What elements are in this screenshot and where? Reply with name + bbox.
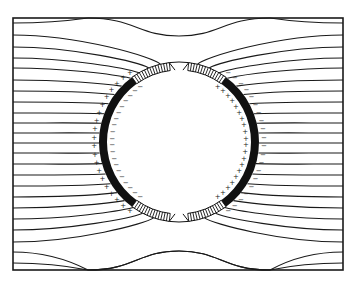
charge-mark-negative: − [244,190,250,198]
charge-mark-negative: − [261,142,267,150]
charge-mark-positive: + [94,159,100,167]
charge-mark-negative: − [260,125,266,133]
charge-mark-negative: − [261,134,267,142]
charge-mark-negative: − [225,207,231,215]
charge-mark-negative: − [137,193,143,201]
charge-mark-negative: − [258,159,264,167]
charge-mark-positive: + [94,117,100,125]
field-line [88,251,270,270]
field-line [13,252,88,270]
field-line [236,80,343,86]
field-line [13,201,125,208]
field-diagram-svg: −++−−++−−++−−++−−++−−++−−++−−++−−++−−++−… [0,0,357,282]
charge-mark-positive: + [127,207,133,215]
charge-mark-positive: + [215,193,221,201]
field-line [13,91,115,94]
field-line [13,193,117,197]
charge-mark-negative: − [258,117,264,125]
charge-mark-negative: − [256,109,262,117]
charge-mark-negative: − [232,74,238,82]
field-line [13,113,104,114]
charge-mark-positive: + [91,142,97,150]
charge-mark-positive: + [120,202,126,210]
field-line [254,113,343,114]
field-line [270,252,343,270]
field-line [13,80,122,86]
field-line [198,35,343,64]
field-line [88,18,270,36]
field-line [252,174,343,175]
charge-mark-positive: + [220,189,226,197]
field-diagram: −++−−++−−++−−++−−++−−++−−++−−++−−++−−++−… [0,0,357,282]
field-line [13,263,88,270]
charge-mark-negative: − [225,69,231,77]
charge-mark-negative: − [238,196,244,204]
polarized-sphere [99,62,259,222]
charge-mark-negative: − [256,167,262,175]
charge-mark-positive: + [114,80,120,88]
charge-mark-positive: + [96,167,102,175]
charge-mark-positive: + [96,109,102,117]
field-line [209,47,343,68]
charge-mark-positive: + [114,196,120,204]
field-line [13,208,133,219]
charge-mark-positive: + [91,134,97,142]
field-line [227,68,343,78]
charge-mark-positive: + [127,69,133,77]
charge-mark-negative: − [137,83,143,91]
field-line [13,174,106,175]
field-line [13,35,160,64]
field-line [13,47,149,68]
charge-mark-negative: − [260,151,266,159]
field-line [13,68,131,78]
field-line [243,91,343,94]
field-line [13,102,109,104]
field-line [249,102,343,104]
charge-mark-negative: − [232,202,238,210]
field-line [13,184,111,186]
field-line [247,184,343,186]
field-line [233,201,343,208]
charge-mark-positive: + [120,74,126,82]
charge-mark-positive: + [92,125,98,133]
field-line [225,208,343,219]
charge-mark-negative: − [253,101,259,109]
field-line [241,193,343,197]
charge-mark-positive: + [92,151,98,159]
charge-mark-positive: + [100,101,106,109]
